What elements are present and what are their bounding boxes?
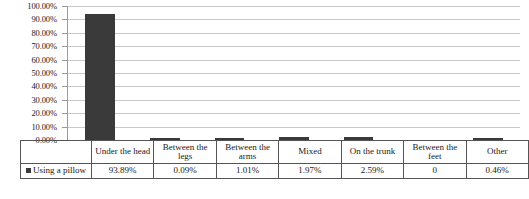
value-cell: 1.97% xyxy=(279,164,341,179)
value-cell: 1.01% xyxy=(216,164,278,179)
y-axis-tick-mark xyxy=(62,113,67,114)
y-axis-tick-label: 10.00% xyxy=(31,122,57,131)
y-axis-tick-label: 100.00% xyxy=(27,2,57,11)
data-table: Under the headBetween the legsBetween th… xyxy=(20,140,529,179)
value-cell: 0.46% xyxy=(466,164,528,179)
bar-slot xyxy=(68,6,133,140)
legend-series-label: Using a pillow xyxy=(33,165,86,175)
y-axis-tick-mark xyxy=(62,60,67,61)
y-axis-tick-mark xyxy=(62,33,67,34)
table-row-categories: Under the headBetween the legsBetween th… xyxy=(21,141,529,164)
category-header-cell: Between the arms xyxy=(216,141,278,164)
bar-slot xyxy=(455,6,520,140)
plot-area: 0.00%10.00%20.00%30.00%40.00%50.00%60.00… xyxy=(0,6,520,154)
category-header-cell: Between the legs xyxy=(154,141,216,164)
category-header-cell: Other xyxy=(466,141,528,164)
value-cell: 93.89% xyxy=(92,164,154,179)
y-axis-tick-label: 20.00% xyxy=(31,109,57,118)
bar-slot xyxy=(197,6,262,140)
legend-swatch-icon xyxy=(26,168,31,173)
category-header-cell: On the trunk xyxy=(341,141,403,164)
y-axis-tick-mark xyxy=(62,19,67,20)
value-cell: 0.09% xyxy=(154,164,216,179)
bar xyxy=(85,14,115,140)
y-axis-tick-label: 70.00% xyxy=(31,42,57,51)
category-header-cell: Between the feet xyxy=(404,141,466,164)
y-axis-tick-label: 30.00% xyxy=(31,96,57,105)
table-row-values: Using a pillow 93.89%0.09%1.01%1.97%2.59… xyxy=(21,164,529,179)
y-axis-tick-mark xyxy=(62,86,67,87)
bar-slot xyxy=(262,6,327,140)
y-axis-tick-label: 80.00% xyxy=(31,29,57,38)
category-header-cell: Under the head xyxy=(92,141,154,164)
y-axis-tick-label: 50.00% xyxy=(31,69,57,78)
bar-slot xyxy=(326,6,391,140)
y-axis-tick-label: 40.00% xyxy=(31,82,57,91)
legend-entry: Using a pillow xyxy=(21,164,92,179)
bar-slot xyxy=(133,6,198,140)
y-axis-tick-mark xyxy=(62,127,67,128)
value-cell: 2.59% xyxy=(341,164,403,179)
table-corner-blank xyxy=(21,141,92,164)
bar-slot xyxy=(391,6,456,140)
y-axis-tick-mark xyxy=(62,100,67,101)
y-axis-tick-mark xyxy=(62,6,67,7)
category-header-cell: Mixed xyxy=(279,141,341,164)
y-axis-tick-labels: 0.00%10.00%20.00%30.00%40.00%50.00%60.00… xyxy=(0,6,62,154)
y-axis-tick-mark xyxy=(62,73,67,74)
value-cell: 0 xyxy=(404,164,466,179)
y-axis-tick-label: 90.00% xyxy=(31,15,57,24)
bars-layer xyxy=(68,6,520,140)
y-axis-tick-label: 60.00% xyxy=(31,55,57,64)
y-axis-tick-mark xyxy=(62,46,67,47)
